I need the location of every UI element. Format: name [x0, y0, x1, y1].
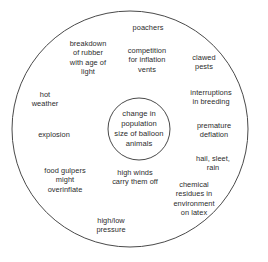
cause-label-breakdown-of-rubber: breakdown of rubber with age of light: [57, 39, 119, 77]
cause-label-high-low-pressure: high/low pressure: [83, 216, 139, 235]
cause-label-hot-weather: hot weather: [19, 90, 71, 109]
cause-label-hail-sleet-rain: hail, sleet, rain: [186, 154, 240, 173]
cause-label-explosion: explosion: [26, 130, 82, 139]
concentric-cause-diagram: change in population size of balloon ani…: [0, 0, 268, 262]
cause-label-clawed-pests: clawed pests: [179, 53, 229, 72]
cause-label-food-gulpers: food gulpers might overinflate: [32, 166, 98, 194]
center-topic-label: change in population size of balloon ani…: [100, 109, 178, 149]
cause-label-poachers: poachers: [115, 23, 181, 32]
cause-label-competition-for-vents: competition for inflation vents: [117, 46, 177, 74]
cause-label-premature-deflation: premature deflation: [186, 121, 242, 140]
cause-label-chemical-residues: chemical residues in environment on late…: [164, 180, 224, 218]
cause-label-high-winds: high winds carry them off: [102, 168, 168, 187]
cause-label-interruptions-in-breeding: interruptions in breeding: [180, 88, 242, 107]
